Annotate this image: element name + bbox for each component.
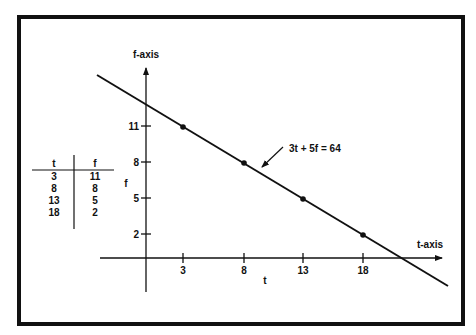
point-3-11 (180, 124, 186, 130)
equation-pointer-arrow (262, 147, 283, 167)
point-8-8 (241, 160, 247, 166)
equation-line (97, 75, 448, 286)
f-variable-label: f (124, 178, 128, 189)
y-tick-8: 8 (133, 157, 139, 168)
t-variable-label: t (263, 275, 267, 286)
chart-canvas: 11 8 5 2 3 8 13 18 f-axis t-axis f t 3t … (0, 0, 476, 335)
table-header-t: t (52, 158, 56, 169)
f-axis-label: f-axis (133, 49, 160, 60)
x-tick-18: 18 (357, 265, 369, 276)
table-cell-t-1: 3 (51, 171, 57, 182)
y-tick-5: 5 (133, 193, 139, 204)
table-cell-f-2: 8 (92, 183, 98, 194)
table-cell-f-4: 2 (92, 207, 98, 218)
equation-label: 3t + 5f = 64 (289, 143, 341, 154)
table-cell-f-3: 5 (92, 195, 98, 206)
t-axis-label: t-axis (417, 239, 444, 250)
x-tick-13: 13 (297, 265, 309, 276)
table-header-f: f (93, 158, 97, 169)
x-tick-8: 8 (241, 265, 247, 276)
table-cell-f-1: 11 (90, 171, 101, 182)
point-13-5 (300, 196, 306, 202)
point-18-2 (360, 232, 366, 238)
y-tick-2: 2 (133, 229, 139, 240)
table-cell-t-4: 18 (48, 207, 60, 218)
table-cell-t-3: 13 (48, 195, 60, 206)
y-tick-11: 11 (128, 121, 139, 132)
x-tick-3: 3 (180, 265, 186, 276)
table-cell-t-2: 8 (51, 183, 57, 194)
